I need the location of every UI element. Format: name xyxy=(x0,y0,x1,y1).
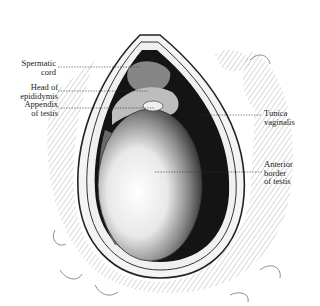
label-tunica-vaginalis: Tunica vaginalis xyxy=(264,109,295,126)
label-anterior-border-of-testis: Anterior border of testis xyxy=(264,160,293,186)
label-head-of-epididymis: Head of epididymis xyxy=(8,83,58,100)
testis-shape xyxy=(98,109,202,261)
label-appendix-of-testis: Appendix of testis xyxy=(10,100,58,117)
testis-illustration xyxy=(0,0,320,306)
appendix-of-testis-shape xyxy=(143,101,163,111)
label-spermatic-cord: Spermatic cord xyxy=(14,59,56,76)
anatomical-figure: Spermatic cord Head of epididymis Append… xyxy=(0,0,320,306)
